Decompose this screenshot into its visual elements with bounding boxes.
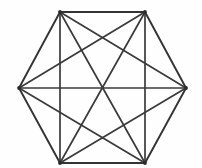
complete-graph-k6-diagram [0, 0, 202, 168]
graph-vertex-top-right [143, 10, 147, 14]
graph-vertex-bottom-right [143, 161, 147, 165]
graph-vertex-right [184, 86, 188, 90]
graph-vertex-left [17, 86, 21, 90]
figure-canvas [0, 0, 202, 168]
graph-vertex-top-left [58, 10, 62, 14]
graph-vertex-bottom-left [58, 161, 62, 165]
